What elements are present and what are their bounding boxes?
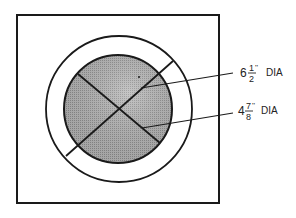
diagram-canvas: 6 1 2 '' DIA 4 7 8 '' DIA xyxy=(0,0,296,218)
inner-label-whole: 4 xyxy=(238,104,245,118)
inner-diameter-label: 4 7 8 '' DIA xyxy=(238,101,278,122)
inner-label-numerator: 7 xyxy=(246,101,251,111)
outer-label-whole: 6 xyxy=(240,66,247,80)
outer-label-denominator: 2 xyxy=(249,74,254,84)
inner-label-denominator: 8 xyxy=(246,112,251,122)
outer-label-unit: '' xyxy=(255,63,259,72)
outer-label-suffix: DIA xyxy=(266,67,283,78)
inner-label-suffix: DIA xyxy=(261,105,278,116)
outer-diameter-label: 6 1 2 '' DIA xyxy=(240,63,283,84)
inner-label-unit: '' xyxy=(252,101,256,110)
center-mark-dot xyxy=(138,76,140,78)
outer-label-numerator: 1 xyxy=(249,63,254,73)
